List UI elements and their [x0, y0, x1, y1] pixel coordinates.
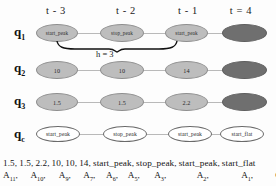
row-label-q2: q2: [14, 60, 25, 78]
legend-attribute-comma-0: ,: [16, 170, 18, 180]
node-q3-t4[interactable]: [222, 93, 267, 111]
node-q2-t4[interactable]: [222, 61, 267, 79]
node-q3-t2[interactable]: 1.5: [100, 93, 144, 111]
legend-attribute-0: A11,: [3, 170, 18, 182]
column-header-t-2: t - 2: [103, 5, 149, 16]
legend-attribute-comma-7: ,: [206, 170, 208, 180]
node-q1-t4[interactable]: [222, 24, 267, 42]
legend-attribute-2: A9,: [59, 170, 71, 182]
legend-value-1: 1.5,: [19, 158, 33, 168]
column-header-t-1: t - 1: [165, 5, 211, 16]
node-q1-t2[interactable]: stop_peak: [100, 24, 144, 42]
legend-attribute-name-4: A: [106, 170, 113, 180]
legend-attribute-1: A10,: [30, 170, 45, 182]
sequence-table-figure: t - 3 t - 2 t - 1 t = 4 q1 start_peak st…: [0, 0, 276, 186]
legend-attribute-comma-2: ,: [68, 170, 70, 180]
node-q1-t3[interactable]: start_peak: [36, 24, 78, 42]
legend-attribute-5: A5,: [128, 170, 140, 182]
legend-attribute-comma-5: ,: [137, 170, 139, 180]
legend-value-0: 1.5,: [3, 158, 17, 168]
node-q2-t3[interactable]: 10: [36, 61, 78, 79]
node-qc-t4[interactable]: start_flat: [220, 126, 264, 142]
column-header-t-3: t - 3: [33, 5, 79, 16]
row-label-q1: q1: [14, 24, 25, 42]
legend-attribute-comma-6: ,: [164, 170, 166, 180]
legend-value-8: start_peak,: [179, 158, 220, 168]
legend-attribute-comma-8: ,: [251, 170, 253, 180]
legend-attribute-name-3: A: [83, 170, 90, 180]
node-q3-t3[interactable]: 1.5: [36, 93, 78, 111]
node-q1-t1[interactable]: start_peak: [165, 24, 208, 42]
legend-values-row: 1.5,1.5,2.2,10,10,14,start_peak,stop_pea…: [3, 158, 275, 168]
row-label-qc: qc: [14, 126, 25, 144]
node-qc-t1[interactable]: start_peak: [168, 126, 212, 142]
row-label-q1-sub: 1: [21, 33, 25, 42]
legend-attribute-name-8: A: [241, 170, 248, 180]
legend-attribute-8: A1,: [241, 170, 253, 182]
row-label-q3-sub: 3: [21, 102, 25, 111]
node-qc-t2[interactable]: stop_peak: [103, 126, 147, 142]
legend-attribute-comma-1: ,: [43, 170, 45, 180]
legend-value-4: 10,: [65, 158, 77, 168]
legend-value-9: start_flat: [222, 158, 256, 168]
legend-attribute-7: A2,: [197, 170, 209, 182]
legend-attribute-comma-4: ,: [116, 170, 118, 180]
row-label-qc-sub: c: [21, 135, 25, 144]
legend-attribute-4: A6,: [106, 170, 118, 182]
legend-value-5: 14,: [79, 158, 91, 168]
legend-value-3: 10,: [52, 158, 64, 168]
horizon-brace: [55, 41, 179, 53]
row-label-q2-sub: 2: [21, 69, 25, 78]
legend-attribute-name-6: A: [154, 170, 161, 180]
column-header-t-4: t = 4: [218, 5, 264, 16]
row-label-q3: q3: [14, 93, 25, 111]
legend-value-2: 2.2,: [35, 158, 49, 168]
legend-attribute-9: Class: [275, 170, 276, 180]
legend-attribute-3: A7,: [83, 170, 95, 182]
legend-attribute-comma-3: ,: [93, 170, 95, 180]
node-q2-t1[interactable]: 14: [165, 61, 208, 79]
node-q3-t1[interactable]: 2.2: [165, 93, 208, 111]
horizon-label: h = 3: [96, 49, 114, 59]
legend-attribute-6: A3,: [154, 170, 166, 182]
legend-attribute-name-9: Class: [275, 170, 276, 180]
node-qc-t3[interactable]: start_peak: [36, 126, 80, 142]
legend-value-6: start_peak,: [93, 158, 134, 168]
legend-value-7: stop_peak,: [136, 158, 177, 168]
legend-attribute-name-0: A: [3, 170, 10, 180]
node-q2-t2[interactable]: 10: [100, 61, 144, 79]
